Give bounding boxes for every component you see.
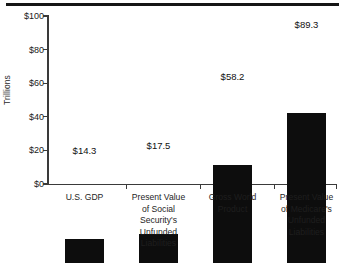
cat4-line3: Unfunded	[269, 215, 341, 227]
x-tick-mark-1	[126, 184, 127, 189]
cat2-line4: Unfunded	[121, 227, 196, 239]
cat2-line2: of Social	[121, 204, 196, 216]
cat4-line4: Liabilities	[269, 227, 341, 239]
x-tick-mark-4	[336, 184, 337, 189]
cat3-line1: Gross World	[195, 192, 270, 204]
y-axis-spine	[47, 15, 49, 185]
x-tick-mark-2	[200, 184, 201, 189]
bar-us-gdp[interactable]	[65, 239, 104, 263]
bar-chart-figure: Trillions $0 $20 $40 $60 $80 $100 $14.3 …	[0, 0, 341, 263]
x-category-label-gross-world-product: Gross World Product	[195, 192, 270, 215]
cat3-line2: Product	[195, 204, 270, 216]
y-axis-ticks: $0 $20 $40 $60 $80 $100	[0, 0, 50, 263]
cat2-line3: Security's	[121, 215, 196, 227]
cat4-line1: Present Value	[269, 192, 341, 204]
bar-column-1	[65, 95, 104, 263]
cat2-line5: Liabilities	[121, 238, 196, 250]
bar-medicare[interactable]	[287, 113, 326, 263]
cat2-line1: Present Value	[121, 192, 196, 204]
cat1-line1: U.S. GDP	[47, 192, 122, 204]
x-category-label-us-gdp: U.S. GDP	[47, 192, 122, 204]
cat4-line2: of Medicare's	[269, 204, 341, 216]
x-tick-mark-3	[274, 184, 275, 189]
top-divider-rule	[6, 3, 339, 6]
bar-value-label-4: $89.3	[267, 19, 341, 30]
bar-column-3	[213, 95, 252, 263]
x-category-label-social-security: Present Value of Social Security's Unfun…	[121, 192, 196, 250]
bar-value-label-2: $17.5	[119, 140, 199, 151]
x-category-label-medicare: Present Value of Medicare's Unfunded Lia…	[269, 192, 341, 238]
bar-value-label-1: $14.3	[45, 145, 125, 156]
bar-value-label-3: $58.2	[193, 71, 273, 82]
